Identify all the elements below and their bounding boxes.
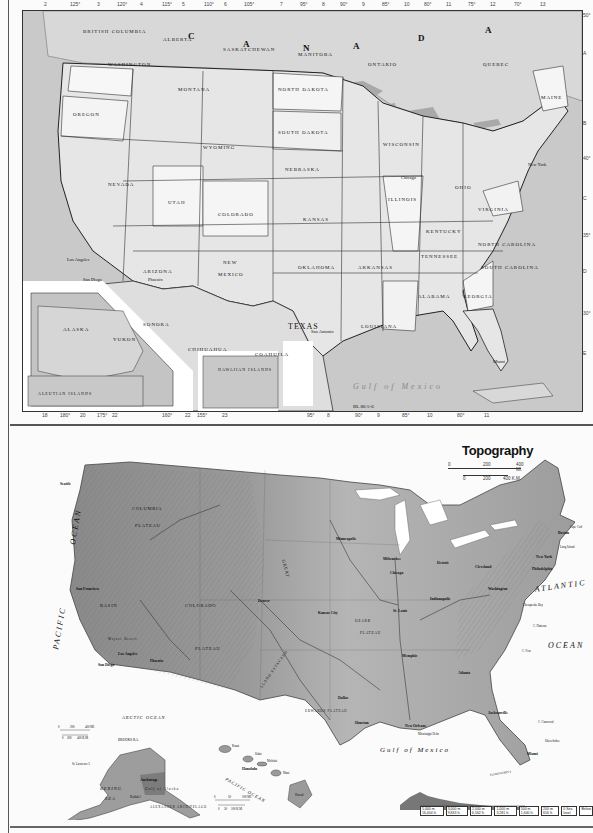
tick: 9 (362, 1, 365, 7)
province-label: MANITOBA (298, 52, 333, 57)
island-label: Maui (283, 771, 289, 775)
island-label: Kauai (232, 744, 239, 748)
hawaii-scale-labels: 0 50 100 MI. 0 50 100 K.M. (214, 795, 252, 811)
state-label: VIRGINIA (478, 207, 509, 212)
inset-label: ALEUTIAN ISLANDS (38, 391, 92, 396)
tick: 8 (322, 1, 325, 7)
place-label: Mississippi Delta (418, 732, 440, 736)
province-label: SASKATCHEWAN (223, 47, 275, 52)
tick: 30° (583, 310, 591, 316)
tick: 3 (97, 1, 100, 7)
state-label: NEBRASKA (285, 167, 320, 172)
city-label: San Diego (98, 663, 114, 667)
state-label: MONTANA (178, 87, 210, 92)
city-label: Honolulu (242, 767, 258, 771)
state-label: SOUTH CAROLINA (481, 265, 539, 270)
scale-label: 200 (483, 476, 491, 481)
city-label: Dallas (338, 696, 349, 700)
city-label: Houston (355, 721, 370, 725)
city-label: Philadelphia (532, 567, 553, 571)
svg-text:400 K.M.: 400 K.M. (77, 736, 89, 740)
tick: 8 (327, 412, 330, 418)
feature-label: PLATEAU (135, 523, 161, 528)
section-divider (10, 424, 593, 426)
tick: 40° (583, 155, 591, 161)
topography-title: Topography (462, 443, 533, 458)
tick: 160° (162, 412, 172, 418)
feature-label: ALEXANDER ARCHIPELAGO (150, 805, 207, 809)
svg-text:200: 200 (70, 725, 75, 729)
place-label: Cape Cod (570, 525, 582, 529)
feature-label: PLATEAU (360, 631, 381, 635)
tick: 85° (402, 412, 410, 418)
city-label: New York (536, 555, 553, 559)
state-label: UTAH (168, 200, 186, 205)
city-label: Washington (488, 587, 508, 591)
svg-text:0: 0 (214, 795, 216, 799)
city-label: Memphis (402, 654, 418, 658)
state-label: OHIO (455, 185, 472, 190)
state-label: TENNESSEE (421, 254, 458, 259)
tick: 80° (424, 1, 432, 7)
svg-text:0: 0 (58, 725, 60, 729)
state-label: NEVADA (108, 182, 134, 187)
city-label: St. Louis (393, 609, 408, 613)
city-label: New York (528, 162, 547, 167)
tick: 90° (355, 412, 363, 418)
inset-label: HAWAIIAN ISLANDS (218, 367, 272, 372)
svg-text:100 MI.: 100 MI. (242, 795, 252, 799)
state-label: LOUISIANA (361, 324, 397, 329)
island-label: Oahu (255, 752, 262, 756)
topography-map: PACIFIC OCEAN ATLANTIC OCEAN Gulf of Mex… (22, 430, 593, 820)
tick: 2 (44, 1, 47, 7)
place-label: C. Hatteras (533, 624, 547, 628)
tick: 11 (484, 412, 489, 418)
state-label: ARKANSAS (358, 265, 393, 270)
place-label: Long Island (560, 545, 575, 549)
state-label: QUEBEC (483, 62, 509, 67)
city-label: Indianapolis (430, 597, 451, 601)
place-label: C. Canaveral (538, 720, 554, 724)
tick: 180° (60, 412, 70, 418)
tick: 125° (70, 1, 80, 7)
svg-text:200: 200 (67, 736, 72, 740)
legend-cell: 2,000 m 6,562 ft. (470, 806, 492, 816)
tick: 95° (307, 412, 315, 418)
state-label: NORTH DAKOTA (278, 87, 329, 92)
state-label: ONTARIO (368, 62, 397, 67)
state-label: ALABAMA (418, 294, 450, 299)
tick: D (583, 268, 587, 274)
svg-text:400 MI.: 400 MI. (85, 725, 95, 729)
tick: 4 (140, 1, 143, 7)
tick: 75° (468, 1, 476, 7)
scale-label: 0 (463, 476, 466, 481)
city-label: Miami (493, 359, 506, 364)
ocean-label: OCEAN (548, 641, 584, 650)
state-label: OKLAHOMA (298, 265, 335, 270)
tick: 7 (280, 1, 283, 7)
tick: 20 (80, 412, 86, 418)
legend-cell: 0 Sea level (561, 806, 577, 816)
tick: 23 (222, 412, 228, 418)
city-label: Chicago (401, 175, 417, 180)
tick: E (583, 350, 586, 356)
tick: 6 (224, 1, 227, 7)
mexico-state-label: CHIHUAHUA (188, 347, 227, 352)
page-binding-edge (8, 0, 9, 833)
country-label: A (353, 41, 360, 51)
city-label: Phoenix (148, 277, 164, 282)
feature-label: Mojave Desert (108, 637, 137, 641)
legend-cell: 200 m 656 ft. (541, 806, 559, 816)
scale-bar-mi (448, 468, 521, 469)
tick: 10 (427, 412, 433, 418)
scale-label: 400 MI. (516, 462, 528, 472)
atlas-page: 2 125° 3 120° 4 115° 5 110° 6 105° 7 95°… (0, 0, 593, 833)
city-label: Anchorage (140, 778, 158, 782)
political-map: C A N A D A WASHINGTON OREGON MONTANA NO… (22, 10, 583, 412)
city-label: Los Angeles (67, 257, 90, 262)
scale-label: 0 (448, 462, 451, 467)
mexico-state-label: COAHUILA (255, 352, 289, 357)
tick: 175° (97, 412, 107, 418)
inset-label: YUKON (113, 337, 136, 342)
city-label: San Diego (83, 277, 103, 282)
